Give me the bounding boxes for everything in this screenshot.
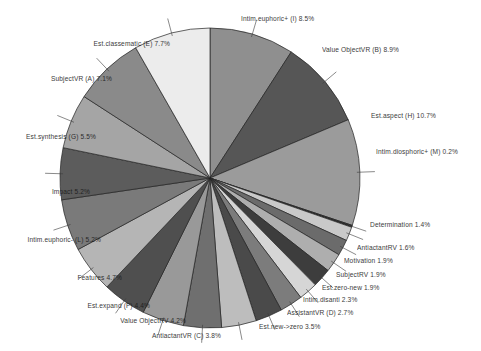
pie-leader-line bbox=[349, 225, 366, 231]
pie-slice-label: Est.classematic (E) 7.7% bbox=[94, 41, 170, 48]
pie-slice-label: Intim.diosphoric+ (M) 0.2% bbox=[376, 149, 458, 156]
pie-slice-label: Motivation 1.9% bbox=[344, 258, 393, 265]
pie-slice-label: Est.aspect (H) 10.7% bbox=[371, 113, 436, 120]
pie-slice-label: Est.new->zero 3.5% bbox=[259, 324, 321, 331]
pie-slice-label: AntiactantVR (C) 3.8% bbox=[152, 333, 221, 340]
pie-slice-label: Impact 5.2% bbox=[52, 189, 90, 196]
pie-slice-group bbox=[45, 19, 375, 343]
pie-slice-label: Determination 1.4% bbox=[370, 222, 430, 229]
pie-slice-label: Est.expand (F) 4.4% bbox=[87, 303, 150, 310]
pie-slice-label: AssistantVR (D) 2.7% bbox=[287, 310, 353, 317]
pie-slice-label: Value ObjectRV 4.2% bbox=[120, 318, 186, 325]
pie-slice-label: Intim.disanti 2.3% bbox=[303, 297, 357, 304]
pie-leader-line bbox=[97, 58, 109, 71]
pie-slice-label: Intim.euphoric- (L) 5.2% bbox=[27, 237, 101, 244]
pie-chart-figure: Intim.euphoric+ (I) 8.5%Value ObjectVR (… bbox=[0, 0, 481, 351]
pie-leader-line bbox=[340, 246, 356, 254]
pie-chart-svg bbox=[0, 0, 481, 351]
pie-slice-label: AntiactantRV 1.6% bbox=[357, 245, 414, 252]
pie-slice-label: Intim.euphoric+ (I) 8.5% bbox=[241, 16, 314, 23]
pie-slice-label: Value ObjectVR (B) 8.9% bbox=[322, 47, 399, 54]
pie-slice-label: SubjectRV 1.9% bbox=[336, 272, 386, 279]
pie-slice-label: Est.zero-new 1.9% bbox=[322, 285, 380, 292]
pie-slice-label: Features 4.7% bbox=[77, 275, 122, 282]
pie-slice-label: SubjectVR (A) 7.1% bbox=[51, 76, 112, 83]
pie-leader-line bbox=[346, 233, 363, 240]
pie-slice-label: Est.synthesis (G) 5.5% bbox=[26, 134, 96, 141]
pie-leader-line bbox=[323, 72, 337, 84]
pie-leader-line bbox=[57, 115, 74, 122]
